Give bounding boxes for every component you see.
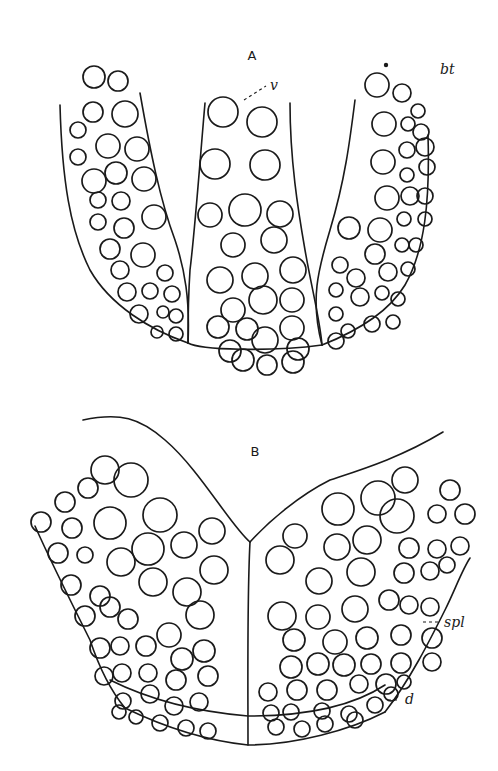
cell-circle (322, 493, 354, 525)
cell-circle (283, 524, 307, 548)
cell-circle (108, 71, 128, 91)
panel-b-transverse-section: B spl d (31, 417, 475, 745)
panel-a-cells (70, 66, 435, 375)
cell-circle (48, 543, 68, 563)
cell-circle (367, 697, 383, 713)
cell-circle (198, 666, 218, 686)
cell-circle (157, 623, 181, 647)
cell-circle (143, 498, 177, 532)
cell-circle (422, 628, 442, 648)
cell-circle (416, 138, 434, 156)
cell-circle (142, 283, 158, 299)
cell-circle (221, 233, 245, 257)
cell-circle (421, 598, 439, 616)
cell-circle (283, 704, 299, 720)
cell-circle (428, 540, 446, 558)
cell-circle (391, 625, 411, 645)
cell-circle (242, 263, 268, 289)
cell-circle (268, 719, 284, 735)
cell-circle (399, 142, 415, 158)
cell-circle (306, 568, 332, 594)
cell-circle (283, 629, 305, 651)
cell-circle (130, 305, 148, 323)
cell-circle (280, 257, 306, 283)
cell-circle (395, 238, 409, 252)
cell-circle (306, 605, 330, 629)
cell-circle (114, 463, 148, 497)
cell-circle (455, 504, 475, 524)
cell-circle (118, 283, 136, 301)
cell-circle (166, 670, 186, 690)
tissue-outline (322, 135, 428, 345)
cell-circle (329, 307, 343, 321)
cell-circle (100, 239, 120, 259)
cell-circle (280, 656, 302, 678)
cell-circle (193, 640, 215, 662)
cell-circle (82, 169, 106, 193)
cell-circle (361, 654, 381, 674)
cell-circle (392, 467, 418, 493)
cell-circle (376, 674, 396, 694)
cell-circle (280, 288, 304, 312)
cell-circle (61, 575, 81, 595)
panel-a-annotations: v bt (244, 61, 455, 100)
cell-circle (142, 205, 166, 229)
cell-circle (236, 318, 258, 340)
cell-circle (379, 263, 397, 281)
cell-circle (307, 653, 329, 675)
cell-circle (294, 721, 310, 737)
cell-circle (169, 309, 183, 323)
cell-circle (129, 710, 143, 724)
cell-circle (105, 162, 127, 184)
cell-circle (118, 609, 138, 629)
cell-circle (368, 218, 392, 242)
cell-circle (386, 315, 400, 329)
tissue-outline (83, 417, 250, 542)
label-v: v (270, 77, 278, 93)
cell-circle (111, 261, 129, 279)
cell-circle (132, 533, 164, 565)
cell-circle (338, 217, 360, 239)
cell-circle (83, 102, 103, 122)
cell-circle (380, 499, 414, 533)
cell-circle (365, 244, 385, 264)
cell-circle (428, 505, 446, 523)
figure-canvas: A v bt B spl d (0, 0, 498, 771)
cell-circle (247, 107, 277, 137)
tissue-outline (250, 432, 443, 542)
cell-circle (171, 532, 197, 558)
cell-circle (451, 537, 469, 555)
cell-circle (400, 596, 418, 614)
cell-circle (55, 492, 75, 512)
cell-circle (70, 149, 86, 165)
cell-circle (259, 683, 277, 701)
cell-circle (77, 547, 93, 563)
cell-circle (391, 653, 411, 673)
cell-circle (287, 680, 307, 700)
label-spl: spl (444, 614, 465, 630)
cell-circle (399, 538, 419, 558)
cell-circle (207, 316, 229, 338)
cell-circle (136, 636, 156, 656)
cell-circle (423, 653, 441, 671)
cell-circle (78, 478, 98, 498)
cell-circle (111, 637, 129, 655)
cell-circle (332, 257, 348, 273)
cell-circle (375, 286, 389, 300)
cell-circle (439, 557, 455, 573)
cell-circle (112, 192, 130, 210)
cell-circle (114, 218, 134, 238)
cell-circle (125, 137, 149, 161)
cell-circle (164, 286, 180, 302)
cell-circle (250, 150, 280, 180)
cell-circle (365, 73, 389, 97)
panel-a-label: A (248, 48, 257, 63)
cell-circle (400, 168, 414, 182)
cell-circle (371, 150, 395, 174)
cell-circle (139, 664, 157, 682)
cell-circle (200, 723, 216, 739)
cell-circle (421, 562, 439, 580)
cell-circle (229, 194, 261, 226)
cell-circle (200, 556, 228, 584)
cell-circle (440, 480, 460, 500)
